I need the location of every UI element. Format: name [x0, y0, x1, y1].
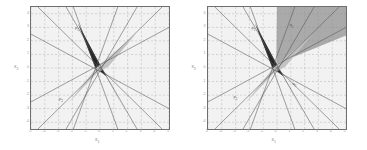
x-tick-label: -2	[70, 129, 73, 133]
y-tick-label: 0	[204, 65, 206, 69]
x-tick-label: 0	[275, 129, 277, 133]
x-tick-label: 2	[302, 129, 304, 133]
x-tick-label: -1	[260, 129, 263, 133]
right-plot-area: p1p2q1q2	[207, 6, 347, 130]
two-panel-figure: x2 p1p2 43210-1-2-3-4 -5-4-3-2-1012345 x…	[0, 0, 367, 150]
y-tick-label: -2	[26, 92, 29, 96]
constraint-line	[31, 27, 169, 102]
y-tick-label: 1	[204, 51, 206, 55]
left-plot-canvas	[31, 7, 169, 129]
left-x-axis-label: x1	[95, 136, 100, 144]
y-tick-label: -3	[202, 106, 205, 110]
y-tick-label: -1	[26, 79, 29, 83]
y-tick-label: -3	[26, 106, 29, 110]
y-tick-label: 1	[27, 51, 29, 55]
y-tick-label: 3	[204, 24, 206, 28]
x-tick-label: -3	[56, 129, 59, 133]
x-tick-label: -1	[84, 129, 87, 133]
x-tick-label: 5	[344, 129, 346, 133]
y-tick-label: -4	[26, 119, 29, 123]
x-tick-label: -5	[28, 129, 31, 133]
x-tick-label: 1	[112, 129, 114, 133]
y-tick-label: 4	[27, 11, 29, 15]
y-tick-label: -1	[202, 79, 205, 83]
x-tick-label: -4	[42, 129, 45, 133]
x-tick-label: 4	[330, 129, 332, 133]
point-label: p2	[59, 97, 63, 103]
right-x-axis-label: x1	[272, 136, 277, 144]
point-label: q1	[290, 23, 294, 29]
y-tick-label: 4	[204, 11, 206, 15]
x-tick-label: -3	[232, 129, 235, 133]
x-tick-label: -4	[219, 129, 222, 133]
point-label: p2	[234, 95, 238, 101]
right-plot-canvas	[208, 7, 346, 129]
x-tick-label: 1	[288, 129, 290, 133]
left-y-tick-labels: 43210-1-2-3-4	[16, 6, 30, 128]
shaded-region-upper-cone	[276, 7, 346, 64]
y-tick-label: 2	[27, 38, 29, 42]
x-tick-label: 3	[139, 129, 141, 133]
x-tick-label: 5	[167, 129, 169, 133]
point-label: q2	[293, 82, 297, 88]
y-tick-label: -4	[202, 119, 205, 123]
right-panel: x2 p1p2q1q2 43210-1-2-3-4 -5-4-3-2-10123…	[184, 0, 367, 150]
left-panel: x2 p1p2 43210-1-2-3-4 -5-4-3-2-1012345 x…	[0, 0, 184, 150]
x-tick-label: 3	[316, 129, 318, 133]
constraint-line	[31, 34, 169, 109]
x-tick-label: 2	[126, 129, 128, 133]
point-label: p1	[252, 26, 256, 32]
x-tick-label: 4	[153, 129, 155, 133]
x-tick-label: -5	[205, 129, 208, 133]
x-tick-label: 0	[98, 129, 100, 133]
right-y-tick-labels: 43210-1-2-3-4	[193, 6, 207, 128]
y-tick-label: 2	[204, 38, 206, 42]
x-tick-label: -2	[246, 129, 249, 133]
y-tick-label: -2	[202, 92, 205, 96]
left-plot-area: p1p2	[30, 6, 170, 130]
y-tick-label: 0	[27, 65, 29, 69]
y-tick-label: 3	[27, 24, 29, 28]
point-label: p1	[75, 26, 79, 32]
